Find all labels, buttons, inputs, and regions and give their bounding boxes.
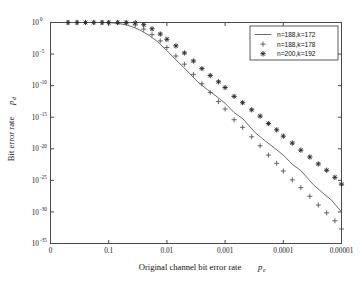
y-tick-label: 10-15 (32, 111, 48, 122)
svg-text:0: 0 (40, 16, 43, 22)
y-tick-label: 10-10 (32, 79, 48, 90)
legend-label: n=188,k=172 (277, 31, 316, 38)
x-tick-label: 0.00001 (330, 246, 354, 255)
x-axis-title: Original channel bit error ratepe (139, 262, 266, 273)
svg-text:d: d (11, 97, 17, 100)
legend-label: n=188,k=178 (277, 41, 316, 48)
x-tick-label: 0.1 (104, 246, 113, 255)
svg-text:e: e (263, 267, 266, 273)
svg-text:10: 10 (32, 18, 40, 27)
svg-text:-25: -25 (40, 174, 47, 180)
y-tick-label: 10-25 (32, 174, 48, 185)
svg-text:10: 10 (32, 113, 40, 122)
y-tick-label: 10-30 (32, 206, 48, 217)
x-tick-label: 0.01 (161, 246, 174, 255)
svg-text:-35: -35 (40, 237, 47, 243)
y-tick-label: 10-5 (32, 48, 45, 59)
legend: n=188,k=172n=188,k=178n=200,k=192 (250, 26, 338, 60)
svg-text:-15: -15 (40, 111, 47, 117)
svg-text:10: 10 (32, 81, 40, 90)
y-tick-label: 10-35 (32, 237, 48, 248)
svg-text:Original channel bit error rat: Original channel bit error rate (139, 262, 242, 272)
svg-text:-10: -10 (40, 79, 47, 85)
svg-text:10: 10 (32, 144, 40, 153)
figure-canvas: 00.10.010.0010.00010.00001 10010-510-101… (0, 0, 361, 294)
svg-text:10: 10 (32, 176, 40, 185)
x-tick-label: 0 (49, 246, 53, 255)
x-tick-label: 0.001 (217, 246, 234, 255)
svg-text:10: 10 (32, 50, 40, 59)
svg-text:Bit error rate: Bit error rate (6, 117, 16, 162)
svg-text:-20: -20 (40, 143, 47, 149)
y-tick-label: 100 (32, 16, 43, 27)
legend-label: n=200,k=192 (277, 50, 316, 57)
svg-text:-30: -30 (40, 206, 47, 212)
svg-text:10: 10 (32, 239, 40, 248)
svg-text:10: 10 (32, 208, 40, 217)
svg-text:-5: -5 (40, 48, 45, 54)
bit-error-rate-chart: 00.10.010.0010.00010.00001 10010-510-101… (0, 0, 361, 294)
y-axis-title: Bit error ratepd (6, 97, 17, 161)
x-tick-label: 0.0001 (273, 246, 293, 255)
y-tick-label: 10-20 (32, 143, 48, 154)
y-axis-tick-labels: 10010-510-1010-1510-2010-2510-3010-35 (32, 16, 48, 248)
x-axis-tick-labels: 00.10.010.0010.00010.00001 (49, 246, 354, 255)
